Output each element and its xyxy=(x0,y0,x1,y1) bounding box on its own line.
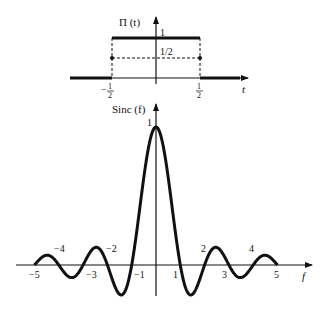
t-axis-label: t xyxy=(242,83,246,95)
tick-m4: −4 xyxy=(54,243,65,254)
right-tick-num: 1 xyxy=(197,82,201,91)
left-tick-num: 1 xyxy=(108,82,112,91)
level-one-label: 1 xyxy=(160,27,165,38)
sinc-plot: Sinc (f) 1 −5 −4 −3 −2 −1 1 2 3 4 5 f xyxy=(16,103,312,296)
half-point-left xyxy=(110,56,114,60)
tick-p2: 2 xyxy=(201,243,206,254)
f-axis-label: f xyxy=(302,270,307,282)
level-half-label: 1/2 xyxy=(160,46,173,57)
peak-label: 1 xyxy=(147,117,152,128)
tick-p3: 3 xyxy=(222,269,227,280)
right-tick-den: 2 xyxy=(197,91,201,100)
sinc-ylabel: Sinc (f) xyxy=(112,103,146,116)
tick-m2: −2 xyxy=(106,243,117,254)
tick-m1: −1 xyxy=(134,269,145,280)
half-point-right xyxy=(198,56,202,60)
left-tick-sign: − xyxy=(101,84,107,95)
rect-ylabel: Π (t) xyxy=(119,16,140,29)
left-tick-den: 2 xyxy=(108,91,112,100)
tick-p4: 4 xyxy=(249,243,254,254)
tick-m3: −3 xyxy=(86,269,97,280)
tick-p5: 5 xyxy=(274,269,279,280)
tick-m5: −5 xyxy=(29,269,40,280)
tick-p1: 1 xyxy=(173,269,178,280)
diagram: Π (t) 1 1/2 − 1 2 1 2 t Sinc (f) 1 −5 −4… xyxy=(0,0,325,314)
rect-plot: Π (t) 1 1/2 − 1 2 1 2 t xyxy=(70,16,248,100)
